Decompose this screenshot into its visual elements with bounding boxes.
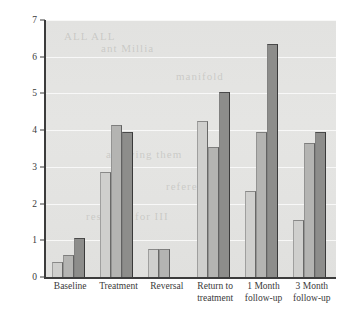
x-category-label-1: Treatment <box>94 281 142 293</box>
x-category-label-line: Treatment <box>94 281 142 293</box>
y-tick-label-5: 5 <box>32 88 37 98</box>
x-category-label-line: treatment <box>191 293 239 305</box>
x-category-label-3: Return totreatment <box>191 281 239 304</box>
bar <box>208 147 219 277</box>
x-category-label-line: follow-up <box>288 293 336 305</box>
bar <box>74 238 85 277</box>
background-bleed-text: manifold <box>176 70 224 82</box>
x-category-label-line: Reversal <box>143 281 191 293</box>
bar <box>256 132 267 277</box>
bar <box>100 172 111 277</box>
bar <box>63 255 74 277</box>
y-axis-ticks: 01234567 <box>0 0 45 319</box>
gridline <box>46 130 336 131</box>
x-category-label-5: 3 Monthfollow-up <box>288 281 336 304</box>
gridline <box>46 167 336 168</box>
bar <box>122 132 133 277</box>
plot-area: ALL ALLant Milliamanifoldallowing themre… <box>46 20 336 277</box>
bar <box>293 220 304 277</box>
x-category-label-line: Baseline <box>46 281 94 293</box>
bar <box>159 249 170 277</box>
y-tick-label-4: 4 <box>32 125 37 135</box>
x-category-label-line: follow-up <box>239 293 287 305</box>
bar <box>315 132 326 277</box>
y-tick-label-3: 3 <box>32 162 37 172</box>
bar <box>267 44 278 277</box>
bar <box>111 125 122 277</box>
y-tick-label-0: 0 <box>32 272 37 282</box>
x-category-label-0: Baseline <box>46 281 94 293</box>
x-category-label-line: Return to <box>191 281 239 293</box>
bar <box>52 262 63 277</box>
background-bleed-text: ant Millia <box>101 42 154 54</box>
x-axis-spine <box>44 277 336 279</box>
gridline <box>46 204 336 205</box>
gridline <box>46 57 336 58</box>
gridline <box>46 20 336 21</box>
bar <box>148 249 159 277</box>
gridline <box>46 93 336 94</box>
x-category-label-2: Reversal <box>143 281 191 293</box>
y-tick-label-1: 1 <box>32 235 37 245</box>
x-axis-category-labels: BaselineTreatmentReversalReturn totreatm… <box>46 281 336 319</box>
bar <box>245 191 256 277</box>
bar <box>197 121 208 277</box>
y-tick-label-7: 7 <box>32 15 37 25</box>
x-category-label-line: 3 Month <box>288 281 336 293</box>
bar <box>304 143 315 277</box>
bar-chart-figure: Average days per week exercised 01234567… <box>0 0 349 319</box>
y-tick-label-2: 2 <box>32 199 37 209</box>
y-tick-label-6: 6 <box>32 52 37 62</box>
bar <box>219 92 230 277</box>
x-category-label-line: 1 Month <box>239 281 287 293</box>
background-bleed-text: ALL ALL <box>64 30 116 42</box>
x-category-label-4: 1 Monthfollow-up <box>239 281 287 304</box>
